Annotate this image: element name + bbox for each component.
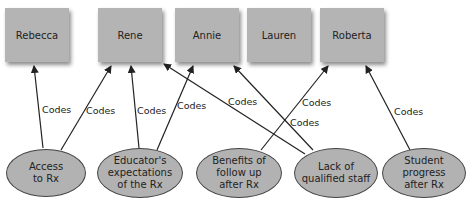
person-box-annie: Annie bbox=[175, 8, 239, 62]
edge-lack-annie bbox=[234, 66, 313, 150]
person-box-rene: Rene bbox=[98, 8, 162, 62]
theme-lack: Lack of qualified staff bbox=[294, 148, 378, 198]
edge-label: Codes bbox=[86, 105, 115, 116]
edge-label: Codes bbox=[42, 104, 71, 115]
edge-benefits-roberta bbox=[261, 66, 328, 150]
theme-label: Educator's expectations of the Rx bbox=[108, 155, 172, 191]
edge-label: Codes bbox=[290, 117, 319, 128]
edge-label: Codes bbox=[394, 106, 423, 117]
theme-label: Lack of qualified staff bbox=[302, 161, 371, 185]
theme-benefits: Benefits of follow up after Rx bbox=[196, 148, 282, 198]
person-box-lauren: Lauren bbox=[247, 8, 311, 62]
person-label: Lauren bbox=[262, 30, 296, 41]
person-box-rebecca: Rebecca bbox=[5, 8, 69, 62]
person-label: Rene bbox=[117, 30, 142, 41]
edge-label: Codes bbox=[228, 96, 257, 107]
theme-educator: Educator's expectations of the Rx bbox=[97, 148, 183, 198]
theme-label: Benefits of follow up after Rx bbox=[212, 155, 266, 191]
theme-access: Access to Rx bbox=[6, 149, 86, 197]
coding-diagram: Rebecca Rene Annie Lauren Roberta Codes … bbox=[0, 0, 472, 204]
edge-label: Codes bbox=[137, 105, 166, 116]
edge-label: Codes bbox=[177, 100, 206, 111]
theme-label: Student progress after Rx bbox=[402, 155, 445, 191]
person-box-roberta: Roberta bbox=[320, 8, 384, 62]
theme-label: Access to Rx bbox=[29, 161, 63, 185]
person-label: Roberta bbox=[332, 30, 371, 41]
person-label: Annie bbox=[193, 30, 221, 41]
theme-student: Student progress after Rx bbox=[382, 148, 466, 198]
person-label: Rebecca bbox=[16, 30, 58, 41]
edge-label: Codes bbox=[302, 97, 331, 108]
